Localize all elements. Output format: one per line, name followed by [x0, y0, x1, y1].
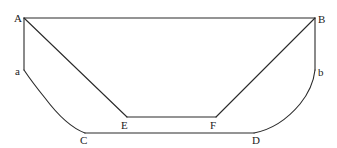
curve-b-D	[254, 70, 315, 133]
label-D: D	[252, 134, 260, 146]
geometric-diagram: A B a b C D E F	[0, 0, 337, 148]
curve-a-C	[24, 70, 85, 133]
label-A: A	[14, 12, 22, 24]
label-B: B	[318, 13, 325, 25]
label-C: C	[80, 134, 87, 146]
edge-A-E	[24, 18, 127, 117]
label-a: a	[15, 65, 20, 77]
label-F: F	[210, 119, 216, 131]
edge-B-F	[216, 18, 315, 117]
label-b: b	[318, 66, 324, 78]
label-E: E	[121, 119, 128, 131]
